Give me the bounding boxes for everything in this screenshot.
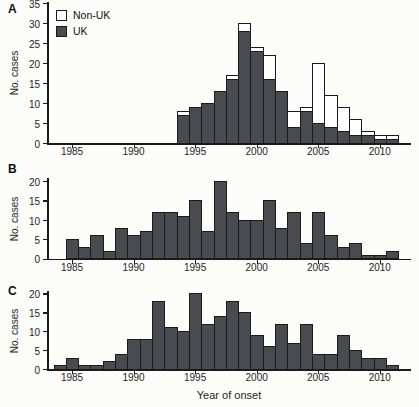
bar-A-uk-1999 [238, 31, 251, 144]
y-tick-C [43, 369, 47, 370]
bar-C-cases-2007 [337, 335, 350, 370]
y-tick-label-C: 10 [18, 326, 40, 337]
bar-A-uk-1998 [226, 79, 239, 144]
bar-C-cases-1990 [127, 339, 140, 370]
bar-B-cases-1986 [78, 247, 91, 260]
bar-B-cases-1985 [66, 239, 79, 259]
bar-A-non-uk-2008 [349, 119, 362, 136]
bar-C-cases-1987 [90, 365, 103, 370]
bar-C-cases-2003 [287, 343, 300, 370]
y-tick-A [43, 43, 47, 44]
bar-C-cases-1985 [66, 358, 79, 370]
x-tick-label-A: 2005 [307, 146, 329, 157]
y-tick-B [43, 259, 47, 260]
bar-B-cases-1999 [238, 220, 251, 260]
bar-A-uk-2005 [312, 123, 325, 144]
bar-C-cases-2011 [386, 365, 399, 370]
x-tick-label-B: 1990 [122, 262, 144, 273]
bar-B-cases-2009 [361, 255, 374, 260]
x-tick-label-A: 1990 [122, 146, 144, 157]
bar-C-cases-1997 [214, 316, 227, 370]
y-tick-B [43, 220, 47, 221]
bar-C-cases-1984 [54, 365, 67, 370]
bar-A-non-uk-2004 [300, 107, 313, 112]
x-tick-label-B: 2000 [246, 262, 268, 273]
y-tick-label-A: 10 [18, 98, 40, 109]
bar-C-cases-2005 [312, 354, 325, 370]
y-tick-A [43, 123, 47, 124]
bar-B-cases-2002 [275, 228, 288, 260]
bar-A-non-uk-2009 [361, 131, 374, 136]
y-tick-label-B: 20 [18, 176, 40, 187]
y-tick-A [43, 103, 47, 104]
x-tick-label-B: 1995 [184, 262, 206, 273]
y-axis-A [47, 2, 49, 144]
y-tick-label-B: 5 [18, 234, 40, 245]
x-tick-label-A: 1995 [184, 146, 206, 157]
bar-A-uk-2008 [349, 135, 362, 144]
y-tick-A [43, 23, 47, 24]
bar-B-cases-1997 [214, 181, 227, 259]
y-tick-A [43, 3, 47, 4]
bar-B-cases-1989 [115, 228, 128, 260]
y-tick-A [43, 63, 47, 64]
bar-B-cases-2004 [300, 243, 313, 259]
bar-C-cases-1998 [226, 301, 239, 370]
legend-label-non-uk: Non-UK [73, 9, 110, 21]
y-tick-label-B: 0 [18, 254, 40, 265]
bar-A-non-uk-2006 [324, 95, 337, 128]
bar-B-cases-2001 [263, 200, 276, 259]
y-tick-B [43, 239, 47, 240]
x-tick-label-B: 2010 [369, 262, 391, 273]
bar-B-cases-2000 [250, 220, 263, 260]
y-tick-label-C: 0 [18, 364, 40, 375]
bar-A-uk-2004 [300, 111, 313, 144]
bar-A-uk-2006 [324, 127, 337, 144]
bar-B-cases-2005 [312, 212, 325, 259]
bar-A-non-uk-2010 [374, 135, 387, 140]
y-tick-label-B: 15 [18, 196, 40, 207]
bar-C-cases-1986 [78, 365, 91, 370]
bar-C-cases-2010 [374, 358, 387, 370]
x-tick-label-C: 2000 [246, 372, 268, 383]
bar-B-cases-2007 [337, 247, 350, 260]
bar-B-cases-1992 [152, 212, 165, 259]
bar-B-cases-1996 [201, 231, 214, 259]
x-tick-label-C: 2005 [307, 372, 329, 383]
bar-C-cases-2008 [349, 350, 362, 370]
y-tick-label-A: 25 [18, 38, 40, 49]
bar-C-cases-1993 [164, 327, 177, 370]
legend: Non-UK UK [56, 7, 110, 39]
three-panel-bar-chart-figure: A B C No. cases No. cases No. cases Non-… [0, 0, 419, 407]
legend-row-uk: UK [56, 23, 110, 39]
bar-A-uk-1994 [177, 115, 190, 144]
x-tick-label-B: 1985 [61, 262, 83, 273]
y-tick-C [43, 350, 47, 351]
x-tick-label-C: 1990 [122, 372, 144, 383]
bar-A-uk-2003 [287, 127, 300, 144]
y-tick-label-A: 30 [18, 18, 40, 29]
bar-C-cases-1991 [140, 339, 153, 370]
y-tick-label-A: 5 [18, 118, 40, 129]
bar-A-non-uk-2003 [287, 111, 300, 128]
y-tick-label-C: 20 [18, 289, 40, 300]
bar-B-cases-2006 [324, 235, 337, 259]
x-tick-label-C: 2010 [369, 372, 391, 383]
y-tick-label-A: 15 [18, 78, 40, 89]
bar-A-non-uk-2007 [337, 107, 350, 132]
bar-C-cases-2000 [250, 335, 263, 370]
bar-B-cases-1995 [189, 200, 202, 259]
bar-C-cases-1999 [238, 312, 251, 370]
bar-C-cases-2002 [275, 324, 288, 370]
bar-B-cases-2010 [374, 255, 387, 260]
bar-A-non-uk-2001 [263, 55, 276, 80]
y-axis-B [47, 178, 49, 260]
bar-B-cases-1987 [90, 235, 103, 259]
bar-B-cases-1994 [177, 216, 190, 260]
legend-label-uk: UK [73, 25, 88, 37]
bar-A-non-uk-1998 [226, 75, 239, 80]
y-tick-label-C: 5 [18, 345, 40, 356]
bar-A-non-uk-1999 [238, 23, 251, 32]
x-tick-label-B: 2005 [307, 262, 329, 273]
bar-A-uk-2007 [337, 131, 350, 144]
